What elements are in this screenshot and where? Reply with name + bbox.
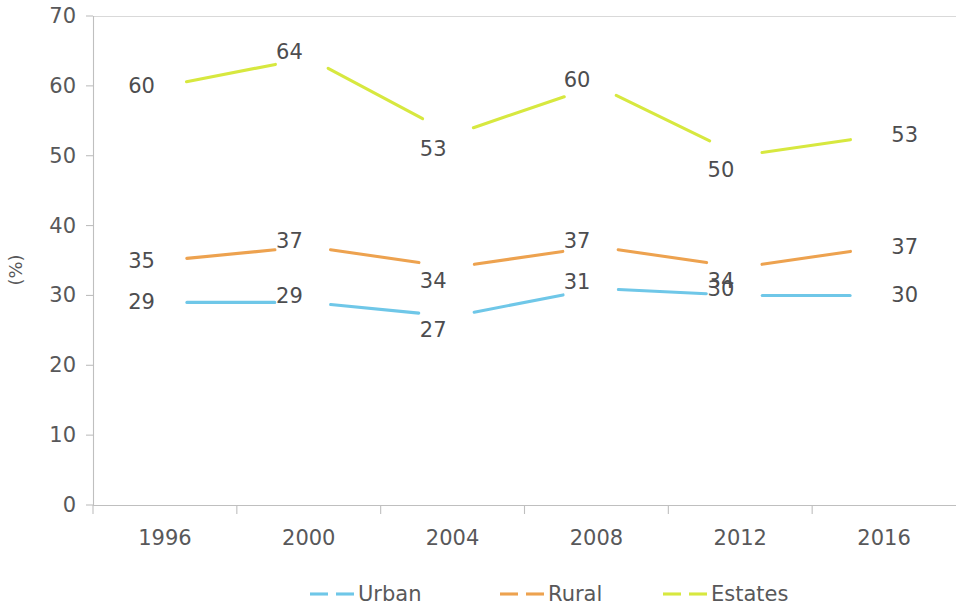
series-segment <box>618 250 706 263</box>
data-label: 60 <box>128 74 155 98</box>
series-segment <box>187 250 275 259</box>
y-tick-label: 30 <box>49 283 76 307</box>
y-tick-label: 10 <box>49 423 76 447</box>
series-segment <box>616 95 709 140</box>
data-label: 29 <box>276 284 303 308</box>
data-label: 53 <box>420 137 447 161</box>
chart-legend: UrbanRuralEstates <box>310 582 788 606</box>
series-segment <box>331 250 419 263</box>
y-tick-label: 70 <box>49 4 76 28</box>
legend-label: Urban <box>358 582 422 606</box>
x-tick-label: 2004 <box>426 526 479 550</box>
data-label: 50 <box>708 158 735 182</box>
data-label: 53 <box>891 123 918 147</box>
y-axis-ticks: 010203040506070 <box>49 4 93 517</box>
series-segment <box>187 64 276 81</box>
y-tick-label: 50 <box>49 144 76 168</box>
data-label: 37 <box>564 229 591 253</box>
series-segment <box>762 251 850 264</box>
legend-label: Rural <box>548 582 602 606</box>
x-tick-label: 1996 <box>138 526 191 550</box>
data-label: 27 <box>420 318 447 342</box>
y-tick-label: 20 <box>49 353 76 377</box>
data-label: 34 <box>708 269 735 293</box>
series-estates <box>187 64 851 152</box>
data-label: 31 <box>564 270 591 294</box>
series-segment <box>762 140 850 153</box>
x-tick-label: 2012 <box>714 526 767 550</box>
series-segment <box>473 97 564 128</box>
data-label: 35 <box>128 249 155 273</box>
line-chart: 010203040506070 199620002004200820122016… <box>0 0 963 610</box>
legend-item-estates[interactable]: Estates <box>663 582 788 606</box>
data-label: 30 <box>891 283 918 307</box>
y-tick-label: 40 <box>49 214 76 238</box>
series-segment <box>328 68 422 118</box>
data-label: 64 <box>276 40 303 64</box>
y-axis-title: (%) <box>5 254 26 285</box>
chart-gridlines <box>93 16 956 506</box>
x-tick-label: 2000 <box>282 526 335 550</box>
series-segment <box>331 305 419 314</box>
data-label: 29 <box>128 290 155 314</box>
series-segment <box>474 295 563 312</box>
series-segment <box>474 251 562 264</box>
data-label: 37 <box>276 229 303 253</box>
y-tick-label: 0 <box>63 493 76 517</box>
data-label: 34 <box>420 269 447 293</box>
x-axis-ticks: 199620002004200820122016 <box>93 505 911 550</box>
data-labels-layer: 292927313030353734373437606453605053 <box>128 40 918 342</box>
data-label: 37 <box>891 235 918 259</box>
legend-item-urban[interactable]: Urban <box>310 582 422 606</box>
legend-item-rural[interactable]: Rural <box>500 582 602 606</box>
chart-canvas: 010203040506070 199620002004200820122016… <box>0 0 963 610</box>
series-segment <box>618 290 706 294</box>
legend-label: Estates <box>711 582 788 606</box>
x-tick-label: 2008 <box>570 526 623 550</box>
series-layer <box>187 64 851 313</box>
y-tick-label: 60 <box>49 74 76 98</box>
x-tick-label: 2016 <box>857 526 910 550</box>
data-label: 60 <box>564 68 591 92</box>
